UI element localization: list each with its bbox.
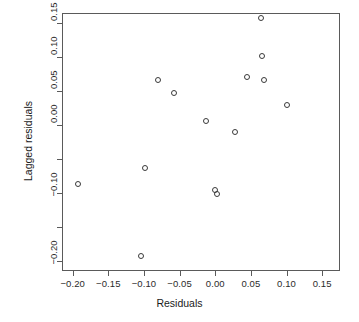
data-point — [75, 181, 81, 187]
x-tick-mark — [251, 271, 252, 276]
y-tick-label: 0.00 — [48, 125, 59, 179]
x-tick-mark — [180, 271, 181, 276]
data-point — [232, 129, 238, 135]
x-tick-mark — [215, 271, 216, 276]
x-tick-label: −0.15 — [88, 278, 128, 289]
y-axis-title: Lagged residuals — [22, 51, 34, 231]
x-tick-label: 0.10 — [267, 278, 307, 289]
x-tick-label: 0.05 — [231, 278, 271, 289]
x-tick-label: 0.15 — [302, 278, 342, 289]
data-point — [284, 102, 290, 108]
x-tick-mark — [73, 271, 74, 276]
data-point — [155, 77, 161, 83]
x-tick-mark — [144, 271, 145, 276]
x-tick-mark — [108, 271, 109, 276]
y-tick-label: −0.10 — [48, 192, 59, 246]
data-point — [261, 77, 267, 83]
x-tick-label: −0.10 — [124, 278, 164, 289]
x-axis-title: Residuals — [0, 297, 359, 309]
x-tick-mark — [322, 271, 323, 276]
x-tick-mark — [287, 271, 288, 276]
data-point — [203, 118, 209, 124]
scatter-plot-figure: −0.20−0.15−0.10−0.050.000.050.100.15 0.1… — [0, 0, 359, 322]
data-point — [171, 90, 177, 96]
plot-area-frame — [62, 13, 340, 271]
x-tick-label: −0.05 — [160, 278, 200, 289]
x-tick-label: 0.00 — [195, 278, 235, 289]
data-point — [258, 15, 264, 21]
